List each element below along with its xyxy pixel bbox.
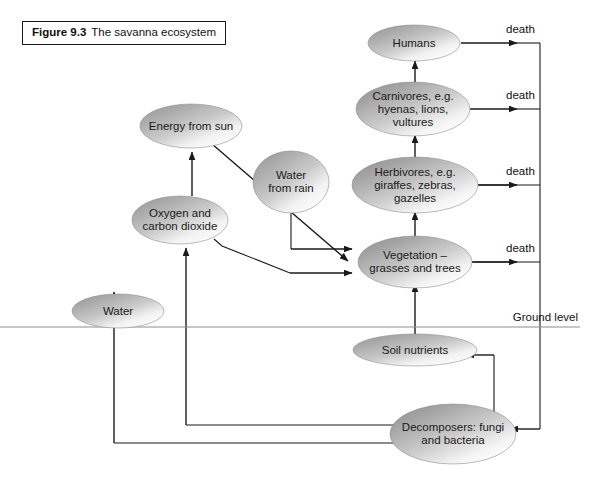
node-energy-from-sun[interactable]: Energy from sun: [140, 104, 242, 148]
node-oxygen-line2: carbon dioxide: [143, 220, 218, 232]
node-oxygen-carbon-dioxide[interactable]: Oxygen and carbon dioxide: [132, 196, 228, 244]
node-decomposers-line2: and bacteria: [421, 434, 485, 446]
node-vegetation-line2: grasses and trees: [369, 262, 461, 274]
node-water-from-rain[interactable]: Water from rain: [253, 151, 329, 213]
node-herbivores-line1: Herbivores, e.g.: [374, 166, 455, 178]
node-oxygen-line1: Oxygen and: [149, 207, 211, 219]
node-water-from-rain-line2: from rain: [268, 182, 313, 194]
node-vegetation[interactable]: Vegetation – grasses and trees: [358, 236, 472, 288]
node-herbivores-line2: giraffes, zebras,: [374, 179, 456, 191]
label-death-vegetation: death: [506, 242, 535, 254]
ecosystem-diagram: Ground level Humans Carnivores, e.g. hye…: [0, 0, 598, 485]
label-death-herbivores: death: [506, 165, 535, 177]
node-carnivores[interactable]: Carnivores, e.g. hyenas, lions, vultures: [356, 82, 470, 136]
node-vegetation-line1: Vegetation –: [383, 249, 448, 261]
node-humans-label: Humans: [393, 37, 436, 49]
node-water-label: Water: [103, 305, 133, 317]
edge-oxygen-to-vegetation-diag: [214, 239, 290, 273]
node-herbivores[interactable]: Herbivores, e.g. giraffes, zebras, gazel…: [352, 157, 478, 213]
label-death-humans: death: [506, 23, 535, 35]
diagram-canvas: Figure 9.3The savanna ecosystem: [0, 0, 598, 485]
node-energy-from-sun-label: Energy from sun: [149, 120, 233, 132]
node-carnivores-line3: vultures: [393, 116, 434, 128]
label-death-carnivores: death: [506, 89, 535, 101]
node-decomposers-line1: Decomposers: fungi: [402, 421, 504, 433]
node-carnivores-line1: Carnivores, e.g.: [372, 90, 453, 102]
node-decomposers[interactable]: Decomposers: fungi and bacteria: [390, 404, 516, 464]
node-soil-nutrients[interactable]: Soil nutrients: [353, 334, 477, 366]
node-humans[interactable]: Humans: [368, 25, 460, 61]
ground-level-label: Ground level: [513, 311, 578, 323]
node-water[interactable]: Water: [72, 294, 164, 328]
node-herbivores-line3: gazelles: [394, 192, 436, 204]
node-soil-nutrients-label: Soil nutrients: [382, 344, 449, 356]
node-water-from-rain-line1: Water: [276, 169, 306, 181]
node-carnivores-line2: hyenas, lions,: [378, 103, 448, 115]
